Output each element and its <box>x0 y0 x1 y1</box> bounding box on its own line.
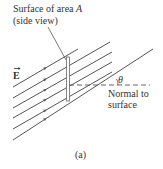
surface-subtitle: (side view) <box>13 15 58 27</box>
figure-caption: (a) <box>75 149 86 161</box>
surface-side-view <box>67 57 70 101</box>
surface-title: Surface of area A <box>13 3 83 14</box>
normal-label-line2: surface <box>108 99 137 110</box>
theta-label: θ <box>118 74 123 85</box>
normal-label: Normal to <box>108 88 149 99</box>
field-line <box>13 42 110 98</box>
electric-field-label: E <box>13 70 20 81</box>
field-arrows <box>43 67 46 121</box>
electric-flux-diagram: Surface of area A (side view) θ Normal t… <box>0 0 163 169</box>
leader-line <box>48 27 66 60</box>
